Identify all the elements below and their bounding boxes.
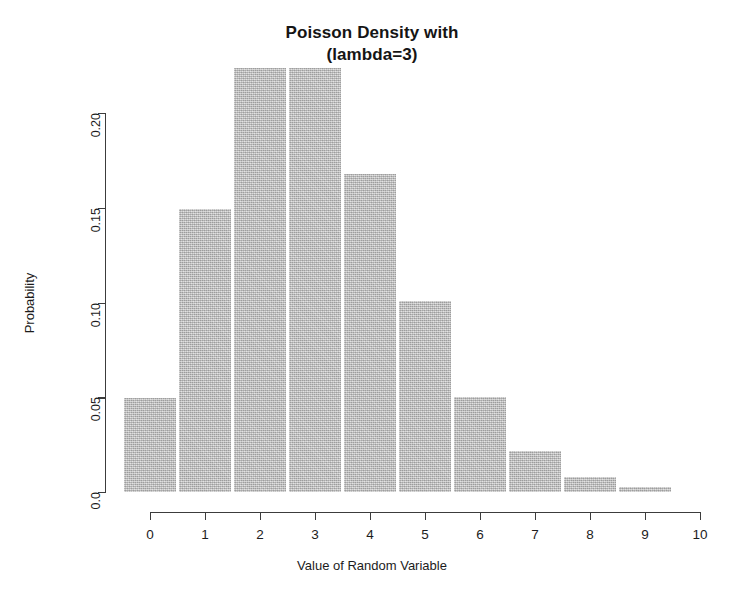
x-axis-tick-label: 5 <box>421 527 429 542</box>
y-axis-title: Probability <box>22 273 37 334</box>
x-axis-tick-label: 0 <box>146 527 154 542</box>
x-axis-tick-label: 6 <box>476 527 484 542</box>
y-axis-tick-label: 0.10 <box>89 303 103 327</box>
bar <box>509 451 562 492</box>
x-axis-title: Value of Random Variable <box>0 558 744 573</box>
x-axis-tick-label: 10 <box>692 527 707 542</box>
bars-layer <box>105 70 710 492</box>
x-axis-tick-mark <box>150 512 151 520</box>
x-axis-tick-label: 4 <box>366 527 374 542</box>
bar <box>124 398 177 492</box>
x-axis-tick-label: 1 <box>201 527 209 542</box>
y-axis-tick-label: 0.05 <box>89 397 103 421</box>
bar <box>179 209 232 492</box>
x-axis-tick-mark <box>205 512 206 520</box>
chart-title-line-1: Poisson Density with <box>0 22 744 44</box>
x-axis-tick-mark <box>425 512 426 520</box>
x-axis-tick-mark <box>590 512 591 520</box>
x-axis-tick-mark <box>480 512 481 520</box>
chart-title: Poisson Density with (lambda=3) <box>0 22 744 66</box>
x-axis-tick-label: 7 <box>531 527 539 542</box>
y-axis-tick-label: 0.0 <box>89 492 103 509</box>
bar <box>564 477 617 492</box>
bar <box>399 301 452 492</box>
x-axis-tick-label: 2 <box>256 527 264 542</box>
x-axis-tick-mark <box>645 512 646 520</box>
x-axis-tick-mark <box>535 512 536 520</box>
x-axis-tick-label: 3 <box>311 527 319 542</box>
plot-area <box>105 70 710 492</box>
x-axis-tick-label: 9 <box>641 527 649 542</box>
x-axis-tick-mark <box>260 512 261 520</box>
y-axis-tick-label: 0.15 <box>89 208 103 232</box>
x-axis-tick-mark <box>700 512 701 520</box>
y-axis-tick-label: 0.20 <box>89 113 103 137</box>
bar <box>454 397 507 493</box>
bar <box>234 68 287 492</box>
bar <box>289 68 342 492</box>
x-axis-tick-mark <box>370 512 371 520</box>
bar <box>619 487 672 492</box>
x-axis-tick-mark <box>315 512 316 520</box>
poisson-density-chart-figure: Poisson Density with (lambda=3) Probabil… <box>0 0 744 606</box>
chart-title-line-2: (lambda=3) <box>0 44 744 66</box>
bar <box>344 174 397 492</box>
x-axis-tick-label: 8 <box>586 527 594 542</box>
